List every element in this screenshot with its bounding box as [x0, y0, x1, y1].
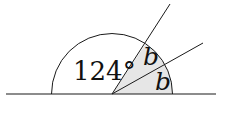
- angle-diagram: 124° b b: [0, 0, 226, 126]
- angle-label-b-lower: b: [155, 67, 171, 96]
- angle-label-124: 124°: [73, 56, 136, 86]
